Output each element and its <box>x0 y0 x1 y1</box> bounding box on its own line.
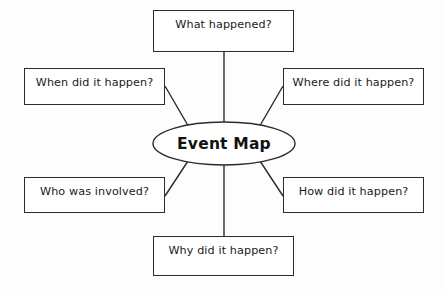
node-label-when: When did it happen? <box>36 69 154 88</box>
node-label-who: Who was involved? <box>40 178 149 197</box>
node-box-what[interactable]: What happened? <box>153 10 294 52</box>
node-label-how: How did it happen? <box>299 178 409 197</box>
node-box-when[interactable]: When did it happen? <box>24 68 165 105</box>
node-box-why[interactable]: Why did it happen? <box>153 236 294 276</box>
center-node-label: Event Map <box>177 135 271 153</box>
node-box-where[interactable]: Where did it happen? <box>283 68 424 105</box>
diagram-canvas: Event Map What happened? When did it hap… <box>0 0 445 294</box>
node-label-what: What happened? <box>175 11 271 30</box>
center-node-event-map[interactable]: Event Map <box>153 122 295 165</box>
node-box-how[interactable]: How did it happen? <box>283 177 424 213</box>
node-box-who[interactable]: Who was involved? <box>24 177 165 213</box>
node-label-why: Why did it happen? <box>168 237 278 256</box>
node-label-where: Where did it happen? <box>293 69 415 88</box>
